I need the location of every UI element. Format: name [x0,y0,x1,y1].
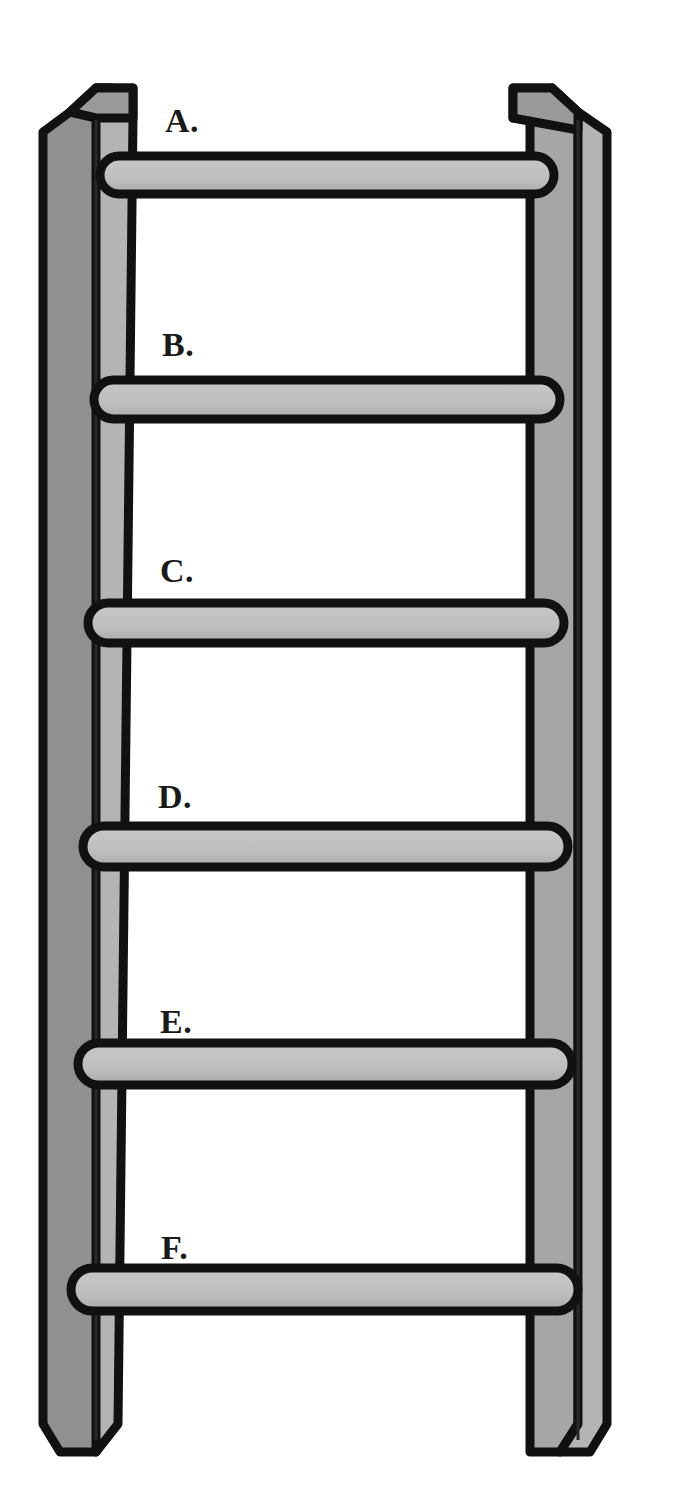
rung-label-d: D. [158,780,192,814]
right-rail-front-face [513,88,578,1452]
rung-group [71,156,578,1311]
rung-label-e: E. [160,1005,192,1039]
left-rail-front-face [96,88,133,1452]
rung-e [78,1043,572,1085]
rung-label-c: C. [160,554,194,588]
rung-b [94,380,560,419]
rung-d [83,826,568,867]
left-rail [43,88,133,1452]
rung-c [88,603,564,643]
ladder-illustration-canvas: A. B. C. D. E. F. [0,0,679,1503]
right-rail-top-bevel [513,88,578,130]
rung-label-b: B. [162,328,194,362]
rung-label-f: F. [161,1231,188,1265]
rung-f [71,1268,578,1311]
rung-a [100,156,554,194]
rung-label-a: A. [165,104,199,138]
right-rail [513,88,607,1452]
left-rail-top-bevel [70,88,133,118]
ladder-drawing [0,0,679,1503]
